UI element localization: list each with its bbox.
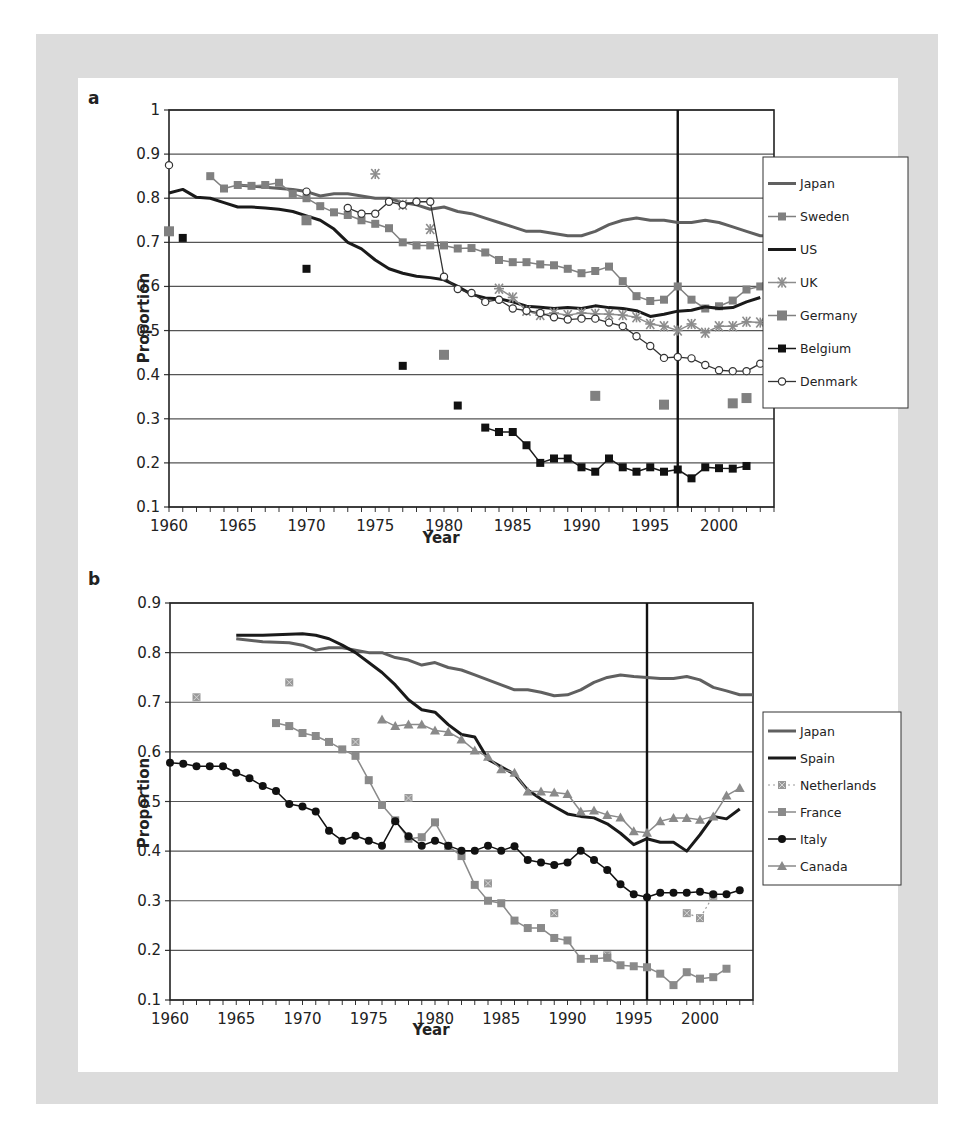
y-tick-label: 0.3 — [137, 892, 161, 910]
chart-b-x-axis: 196019651970197519801985199019952000 — [151, 1000, 753, 1028]
legend-label: US — [800, 242, 817, 257]
legend-label: Sweden — [800, 209, 849, 224]
x-tick-label: 1995 — [631, 517, 669, 535]
series-denmark — [165, 162, 777, 375]
series-italy — [166, 759, 744, 901]
panel-label-a: a — [88, 88, 99, 108]
y-tick-label: 0.7 — [137, 693, 161, 711]
y-tick-label: 0.9 — [136, 145, 160, 163]
y-tick-label: 1 — [150, 101, 160, 119]
x-tick-label: 1970 — [283, 1010, 321, 1028]
y-tick-label: 0.2 — [137, 941, 161, 959]
y-tick-label: 0.9 — [137, 594, 161, 612]
series-japan — [236, 639, 753, 696]
legend-label: Italy — [800, 832, 828, 847]
legend-label: Belgium — [800, 341, 851, 356]
y-tick-label: 0.4 — [136, 366, 160, 384]
chart-b-x-axis-title: Year — [411, 1021, 450, 1039]
chart-a-gridlines — [169, 110, 774, 507]
series-uk — [370, 169, 779, 338]
x-tick-label: 1960 — [150, 517, 188, 535]
y-tick-label: 0.1 — [137, 991, 161, 1009]
y-tick-label: 0.8 — [136, 189, 160, 207]
chart-b-series — [166, 634, 753, 989]
chart-a: a 0.10.20.30.40.50.60.70.80.91 196019651… — [88, 88, 908, 547]
x-tick-label: 1960 — [151, 1010, 189, 1028]
chart-a-x-axis-title: Year — [421, 529, 460, 547]
x-tick-label: 1985 — [482, 1010, 520, 1028]
chart-a-y-axis-title: Proportion — [135, 273, 153, 363]
chart-a-series — [164, 162, 779, 483]
legend-label: Japan — [799, 176, 835, 191]
panel-label-b: b — [88, 569, 100, 589]
legend-label: Spain — [800, 751, 835, 766]
chart-a-legend: JapanSwedenUSUKGermanyBelgiumDenmark — [763, 157, 908, 408]
x-tick-label: 1975 — [356, 517, 394, 535]
chart-b-y-axis-title: Proportion — [135, 758, 153, 848]
x-tick-label: 1965 — [217, 1010, 255, 1028]
chart-b: b 0.10.20.30.40.50.60.70.80.9 1960196519… — [88, 569, 901, 1039]
legend-label: Germany — [800, 308, 858, 323]
chart-b-legend: JapanSpainNetherlandsFranceItalyCanada — [763, 712, 901, 885]
series-netherlands — [193, 678, 718, 959]
y-tick-label: 0.7 — [136, 233, 160, 251]
series-germany — [164, 215, 752, 409]
y-tick-label: 0.3 — [136, 410, 160, 428]
y-tick-label: 0.1 — [136, 498, 160, 516]
x-tick-label: 1970 — [287, 517, 325, 535]
x-tick-label: 1990 — [548, 1010, 586, 1028]
x-tick-label: 1990 — [562, 517, 600, 535]
chart-a-frame — [169, 110, 774, 507]
legend-label: Canada — [800, 859, 848, 874]
x-tick-label: 1975 — [350, 1010, 388, 1028]
chart-a-x-axis: 196019651970197519801985199019952000 — [150, 507, 774, 535]
x-tick-label: 1965 — [219, 517, 257, 535]
y-tick-label: 0.2 — [136, 454, 160, 472]
y-tick-label: 0.8 — [137, 644, 161, 662]
x-tick-label: 1995 — [615, 1010, 653, 1028]
chart-b-gridlines — [170, 603, 753, 1000]
legend-label: Japan — [799, 724, 835, 739]
series-us — [169, 189, 760, 316]
legend-label: France — [800, 805, 842, 820]
figure-canvas: a 0.10.20.30.40.50.60.70.80.91 196019651… — [0, 0, 970, 1130]
series-spain — [236, 634, 740, 851]
x-tick-label: 1985 — [494, 517, 532, 535]
series-japan — [238, 185, 774, 236]
legend-label: Netherlands — [800, 778, 876, 793]
legend-label: UK — [800, 275, 818, 290]
x-tick-label: 2000 — [681, 1010, 719, 1028]
legend-label: Denmark — [800, 374, 858, 389]
x-tick-label: 2000 — [700, 517, 738, 535]
